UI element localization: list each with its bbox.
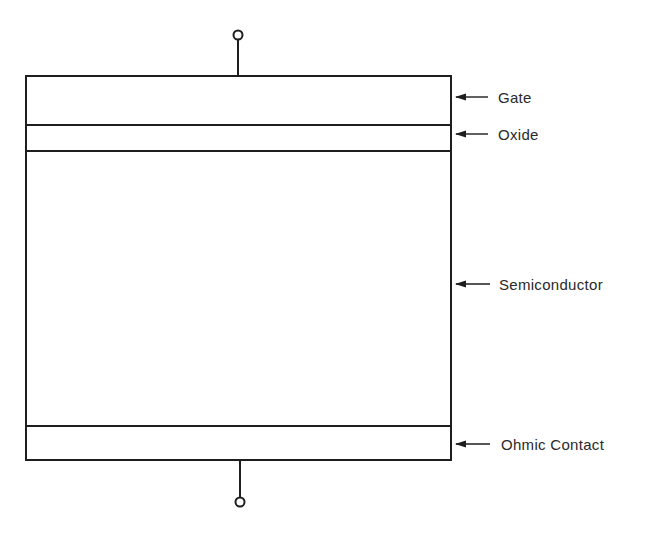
label-text: Oxide xyxy=(498,126,539,143)
label-text: Gate xyxy=(498,89,532,106)
bottom-terminal xyxy=(236,460,245,507)
label-ohmic-contact: Ohmic Contact xyxy=(455,436,605,453)
label-semiconductor: Semiconductor xyxy=(455,276,603,293)
top-terminal xyxy=(234,31,243,77)
label-oxide: Oxide xyxy=(455,126,539,143)
label-text: Ohmic Contact xyxy=(501,436,605,453)
bottom-terminal-circle-icon xyxy=(236,498,245,507)
label-gate: Gate xyxy=(455,89,532,106)
arrow-head-icon xyxy=(455,94,466,101)
device-outline xyxy=(26,76,451,460)
label-text: Semiconductor xyxy=(499,276,603,293)
arrow-head-icon xyxy=(455,441,466,448)
mos-capacitor-diagram: Gate Oxide Semiconductor Ohmic Contact xyxy=(0,0,654,534)
top-terminal-circle-icon xyxy=(234,31,243,40)
arrow-head-icon xyxy=(455,281,466,288)
arrow-head-icon xyxy=(455,131,466,138)
